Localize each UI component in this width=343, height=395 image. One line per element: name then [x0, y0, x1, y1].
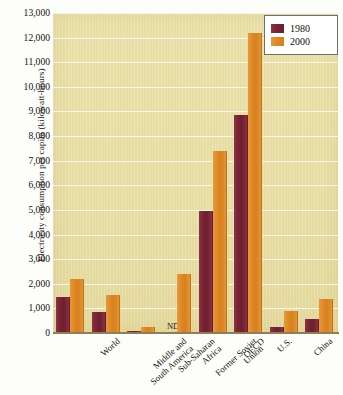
bar-group	[267, 13, 303, 333]
y-tick-label: 1,000	[0, 304, 50, 314]
bar-2000	[284, 311, 298, 333]
y-tick-label: 9,000	[0, 107, 50, 117]
legend-swatch-1980-icon	[271, 24, 284, 33]
bar-2000	[248, 33, 262, 333]
y-tick-label: 3,000	[0, 254, 50, 264]
bar-group	[53, 13, 89, 333]
bar-2000	[106, 295, 120, 333]
electricity-consumption-bar-chart: Electricity consumption per capita (kilo…	[0, 0, 343, 395]
bar-2000	[213, 151, 227, 333]
bar-group	[196, 13, 232, 333]
y-tick-label: 0	[0, 328, 50, 338]
legend-swatch-2000-icon	[271, 37, 284, 46]
y-axis-tick-labels: 13,00012,00011,00010,0009,0008,0007,0006…	[0, 13, 50, 333]
chart-legend: 1980 2000	[264, 15, 338, 55]
y-tick-label: 8,000	[0, 131, 50, 141]
y-tick-label: 10,000	[0, 82, 50, 92]
bar-group	[231, 13, 267, 333]
bar-1980	[92, 312, 106, 333]
bar-2000	[319, 299, 333, 333]
bar-1980	[199, 211, 213, 333]
x-axis-category-labels: WorldMiddle and South AmericaSub-Saharan…	[53, 336, 338, 395]
legend-item-1980: 1980	[271, 23, 331, 34]
bar-2000	[177, 274, 191, 333]
y-tick-label: 11,000	[0, 57, 50, 67]
bar-group: ND	[160, 13, 196, 333]
x-tick-label: U.S.	[275, 336, 294, 354]
x-tick-label: World	[98, 336, 121, 358]
legend-label-1980: 1980	[290, 23, 310, 34]
y-tick-label: 6,000	[0, 181, 50, 191]
bar-1980	[305, 319, 319, 333]
bar-1980	[234, 115, 248, 333]
y-tick-label: 7,000	[0, 156, 50, 166]
y-tick-label: 4,000	[0, 230, 50, 240]
y-tick-label: 2,000	[0, 279, 50, 289]
x-tick-label: China	[312, 336, 335, 358]
bar-group	[89, 13, 125, 333]
legend-item-2000: 2000	[271, 36, 331, 47]
plot-area: ND	[53, 13, 338, 333]
bar-group	[124, 13, 160, 333]
bar-1980	[56, 297, 70, 333]
y-tick-label: 12,000	[0, 33, 50, 43]
legend-label-2000: 2000	[290, 36, 310, 47]
bar-2000	[70, 279, 84, 333]
bar-group	[302, 13, 338, 333]
y-tick-label: 5,000	[0, 205, 50, 215]
y-tick-label: 13,000	[0, 8, 50, 18]
x-axis-line	[53, 332, 339, 334]
